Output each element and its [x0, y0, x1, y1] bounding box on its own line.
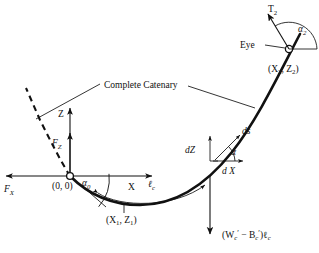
alpha0-tangent-tick [82, 186, 106, 207]
diff-x-label: d X [222, 166, 236, 176]
origin-node [67, 173, 74, 180]
origin-label: (0, 0) [52, 181, 73, 192]
alpha2-label: α2 [298, 24, 307, 36]
diff-z-label: dZ [185, 145, 196, 155]
axis-z-label: Z [58, 109, 64, 119]
force-x-label: FX [3, 184, 15, 196]
eye-leader [265, 45, 285, 48]
catenary-dashed-extension [26, 88, 70, 176]
title-leader-right [188, 86, 255, 108]
title-leader-left [36, 84, 100, 119]
weight-label: (Wc′ − Bc′)ℓc [222, 229, 271, 242]
catenary-curve [70, 34, 300, 205]
axis-x-label: X [128, 182, 135, 192]
diff-s-label: ds [242, 126, 251, 136]
eye-label: Eye [240, 40, 255, 50]
title-label: Complete Catenary [104, 80, 178, 90]
length-label: ℓc [148, 179, 155, 191]
tension-label: T2 [268, 4, 278, 16]
alpha0-label: α0 [82, 178, 91, 190]
tension-t2-vector [268, 14, 289, 49]
point2-label: (X2, Z2) [268, 64, 299, 75]
catenary-figure: Complete Catenary Eye (0, 0) Z X FZ FX α… [0, 0, 319, 253]
force-z-label: FZ [51, 138, 62, 150]
point1-label: (X1, Z1) [106, 215, 137, 226]
